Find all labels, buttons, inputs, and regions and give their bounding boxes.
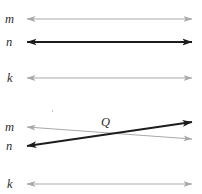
label-line-k-bottom: k xyxy=(7,178,13,191)
scan-speck xyxy=(52,110,53,112)
label-line-m-top: m xyxy=(5,13,14,26)
figure-canvas xyxy=(0,0,202,194)
panel-bottom xyxy=(27,122,192,184)
label-line-k-top: k xyxy=(7,72,13,85)
label-line-m-bottom: m xyxy=(5,121,14,134)
panel-top xyxy=(27,19,192,78)
label-line-n-top: n xyxy=(6,36,12,49)
label-line-n-bottom: n xyxy=(6,140,12,153)
label-point-q: Q xyxy=(101,116,110,129)
geometry-figure: m n k m n k Q xyxy=(0,0,202,194)
